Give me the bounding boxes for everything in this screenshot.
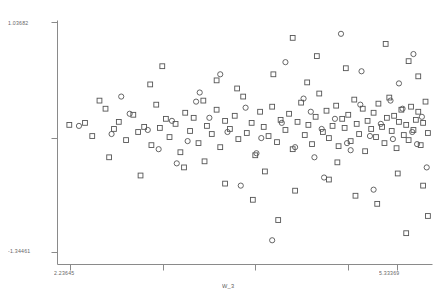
data-point: [182, 165, 187, 170]
data-point: [201, 98, 206, 103]
data-point: [383, 42, 388, 47]
data-point: [423, 99, 428, 104]
data-point: [116, 119, 121, 124]
data-point: [421, 120, 426, 125]
data-point: [413, 117, 418, 122]
data-point: [335, 160, 340, 165]
data-point: [209, 132, 214, 137]
data-point: [160, 64, 165, 69]
data-point: [258, 109, 263, 114]
data-point: [409, 104, 414, 109]
data-point: [241, 94, 246, 99]
data-point: [324, 108, 329, 113]
y-axis-max-label: 1.03682: [8, 20, 29, 26]
data-point: [424, 165, 429, 170]
data-point: [236, 137, 241, 142]
data-point: [384, 115, 389, 120]
data-point: [271, 72, 276, 77]
data-point: [244, 131, 249, 136]
data-point: [218, 72, 223, 77]
data-point: [196, 141, 201, 146]
data-point: [259, 135, 264, 140]
data-point: [243, 105, 248, 110]
data-point: [276, 218, 281, 223]
data-point: [404, 123, 409, 128]
y-axis-min-label: -1.34461: [8, 248, 30, 254]
data-point: [109, 131, 114, 136]
data-point: [330, 124, 335, 129]
data-point: [310, 142, 315, 147]
data-point: [426, 214, 431, 219]
data-point: [404, 231, 409, 236]
data-point: [249, 120, 254, 125]
data-point: [363, 149, 368, 154]
data-point: [232, 113, 237, 118]
data-point: [188, 129, 193, 134]
data-point: [263, 169, 268, 174]
data-point: [193, 99, 198, 104]
data-point: [156, 147, 161, 152]
data-point: [426, 131, 431, 136]
data-point: [376, 101, 381, 106]
data-point: [387, 95, 392, 100]
x-axis-min-label: 2.23645: [54, 270, 75, 276]
data-point: [275, 140, 280, 145]
data-point: [343, 66, 348, 71]
data-point: [270, 238, 275, 243]
data-point: [191, 115, 196, 120]
data-point: [250, 197, 255, 202]
data-point: [308, 109, 313, 114]
data-point: [336, 144, 341, 149]
data-point: [327, 136, 332, 141]
data-point: [145, 127, 150, 132]
data-point: [112, 127, 117, 132]
data-point: [207, 115, 212, 120]
data-point: [138, 173, 143, 178]
data-markers-layer: [67, 31, 430, 243]
data-point: [293, 188, 298, 193]
data-point: [167, 135, 172, 140]
data-point: [314, 54, 319, 59]
data-point: [338, 31, 343, 36]
data-point: [214, 107, 219, 112]
data-point: [353, 193, 358, 198]
data-point: [313, 114, 318, 119]
data-point: [334, 103, 339, 108]
data-point: [178, 150, 183, 155]
data-point: [185, 138, 190, 143]
data-point: [83, 120, 88, 125]
data-point: [406, 138, 411, 143]
x-axis-max-label: 5.33369: [379, 270, 400, 276]
data-point: [419, 114, 424, 119]
data-point: [287, 111, 292, 116]
data-point: [119, 94, 124, 99]
data-point: [67, 123, 72, 128]
data-point: [414, 142, 419, 147]
data-point: [332, 116, 337, 121]
data-point: [174, 161, 179, 166]
data-point: [124, 138, 129, 143]
data-point: [76, 123, 81, 128]
data-point: [266, 134, 271, 139]
data-point: [392, 113, 397, 118]
data-point: [327, 177, 332, 182]
data-point: [283, 60, 288, 65]
data-point: [154, 102, 159, 107]
data-point: [148, 82, 153, 87]
x-axis-title: W_3: [222, 283, 234, 289]
data-point: [261, 125, 266, 130]
data-point: [319, 126, 324, 131]
data-point: [305, 80, 310, 85]
data-point: [397, 119, 402, 124]
data-point: [164, 116, 169, 121]
data-point: [306, 123, 311, 128]
data-point: [378, 121, 383, 126]
data-point: [223, 181, 228, 186]
data-point: [359, 69, 364, 74]
data-point: [270, 104, 275, 109]
scatter-plot-canvas: [0, 0, 437, 299]
data-point: [374, 135, 379, 140]
data-point: [290, 35, 295, 40]
data-point: [320, 130, 325, 135]
data-point: [371, 110, 376, 115]
